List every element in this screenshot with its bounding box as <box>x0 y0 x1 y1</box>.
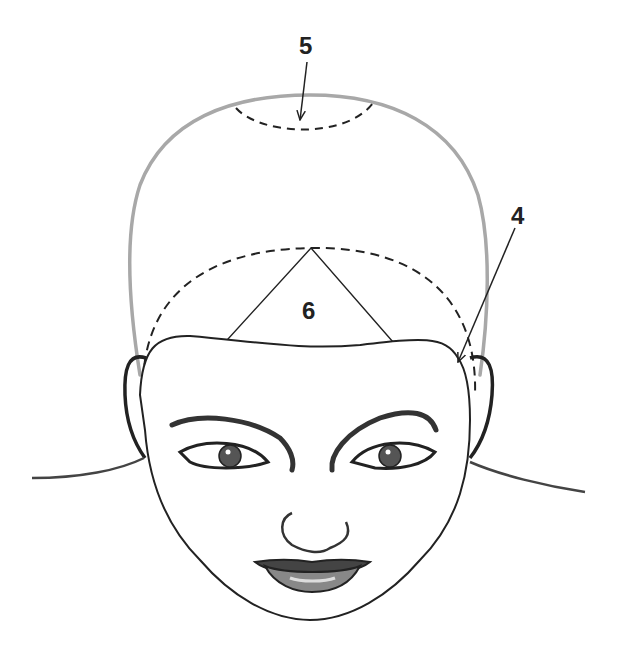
crown-section-dashed-arc <box>236 103 373 130</box>
head-diagram: 5 4 6 <box>0 0 622 657</box>
right-shoulder-line <box>470 462 585 492</box>
label-4: 4 <box>511 204 524 228</box>
label-5-arrow <box>300 62 307 120</box>
head-diagram-drawing <box>0 0 622 657</box>
label-5: 5 <box>299 34 312 58</box>
head-outline <box>130 95 487 375</box>
left-shoulder-line <box>32 458 144 478</box>
label-6: 6 <box>302 299 315 323</box>
